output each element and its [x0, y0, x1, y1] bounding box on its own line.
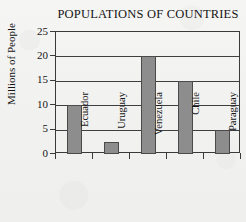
y-tick-label: 0: [22, 148, 48, 159]
y-tick-label: 25: [22, 26, 48, 37]
x-axis-label-uruguay: Uruguay: [116, 92, 127, 162]
y-axis-title: Millions of People: [5, 9, 17, 119]
y-tick-label: 10: [22, 99, 48, 110]
y-tick-label: 15: [22, 74, 48, 85]
x-tick-mark: [55, 153, 56, 159]
x-tick-mark: [129, 153, 130, 159]
x-tick-mark: [203, 153, 204, 159]
chart-title: POPULATIONS OF COUNTRIES: [54, 7, 242, 21]
x-axis-label-ecuador: Ecuador: [79, 92, 90, 162]
bar-chart: POPULATIONS OF COUNTRIES Millions of Peo…: [0, 0, 246, 222]
x-tick-mark: [92, 153, 93, 159]
y-tick-label: 20: [22, 50, 48, 61]
x-axis-label-paraguay: Paraguay: [227, 92, 238, 162]
x-axis-label-venezuela: Venezuela: [153, 92, 164, 162]
x-axis-label-chile: Chile: [190, 92, 201, 162]
x-tick-mark: [240, 153, 241, 159]
x-tick-mark: [166, 153, 167, 159]
y-tick-label: 5: [22, 123, 48, 134]
